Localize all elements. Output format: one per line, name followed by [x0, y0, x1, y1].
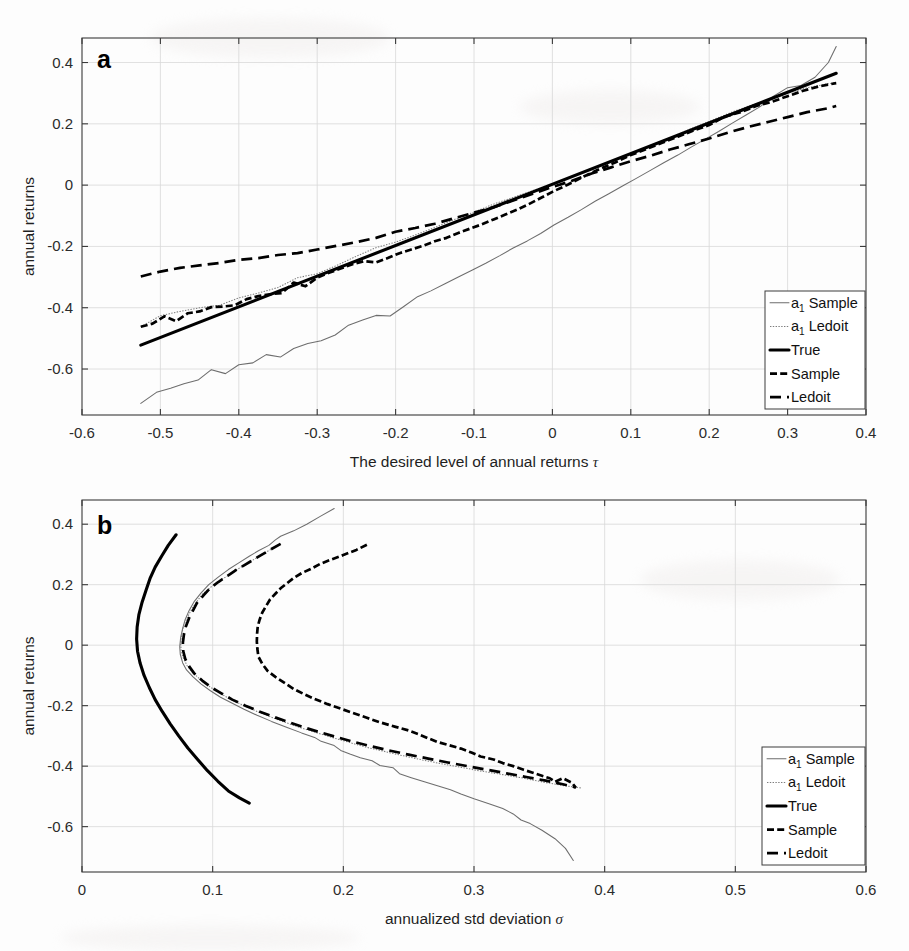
- legend-text: Ledoit: [802, 774, 846, 790]
- series-line-true: [137, 535, 250, 803]
- x-tick-label: 0.5: [725, 881, 746, 898]
- y-tick-label: -0.2: [47, 237, 73, 254]
- legend-text: True: [788, 798, 817, 814]
- legend-text: Ledoit: [805, 318, 849, 334]
- x-tick-label: 0.4: [856, 424, 877, 441]
- panel-letter-b: b: [97, 511, 112, 539]
- series-line-a1_sample: [141, 47, 836, 404]
- series-line-a1_ledoit: [181, 544, 582, 788]
- axes-layer: -0.6-0.5-0.4-0.3-0.2-0.100.10.20.30.4-0.…: [47, 38, 876, 441]
- grid-layer: [82, 500, 866, 872]
- x-tick-label: 0.3: [777, 424, 798, 441]
- y-tick-label: 0.2: [52, 576, 73, 593]
- legend-label-true: True: [791, 342, 820, 358]
- panel-letter-a: a: [97, 45, 112, 73]
- x-tick-label: 0: [78, 881, 86, 898]
- legend-label-ledoit: Ledoit: [791, 389, 831, 405]
- x-axis-title: The desired level of annual returns τ: [350, 453, 599, 470]
- legend-text: Sample: [802, 751, 855, 767]
- legend-text: Ledoit: [791, 389, 831, 405]
- legend-text: Sample: [805, 295, 858, 311]
- x-tick-label: -0.4: [226, 424, 252, 441]
- legend-label-true: True: [788, 798, 817, 814]
- x-tick-label: 0.1: [620, 424, 641, 441]
- x-tick-label: -0.6: [69, 424, 95, 441]
- x-tick-label: -0.5: [147, 424, 173, 441]
- y-tick-label: 0.4: [52, 515, 73, 532]
- legend-b[interactable]: a1 Samplea1 LedoitTrueSampleLedoit: [762, 747, 865, 865]
- series-line-a1_ledoit: [141, 82, 836, 326]
- y-tick-label: 0: [65, 176, 73, 193]
- legend-a[interactable]: a1 Samplea1 LedoitTrueSampleLedoit: [765, 291, 865, 409]
- series-line-sample: [257, 545, 576, 788]
- y-axis-title: annual returns: [20, 636, 37, 735]
- y-tick-label: 0.2: [52, 115, 73, 132]
- series-line-ledoit: [141, 106, 836, 276]
- x-axis-symbol: τ: [593, 454, 599, 470]
- x-tick-label: 0.4: [594, 881, 615, 898]
- x-tick-label: -0.1: [461, 424, 487, 441]
- legend-text: Sample: [791, 366, 840, 382]
- panel-b-svg: 00.10.20.30.40.50.6-0.6-0.4-0.200.20.4ba…: [0, 480, 909, 951]
- series-line-true: [141, 73, 836, 345]
- x-tick-label: -0.3: [304, 424, 330, 441]
- legend-text: Sample: [788, 822, 837, 838]
- legend-text: Ledoit: [788, 845, 828, 861]
- figure-container: -0.6-0.5-0.4-0.3-0.2-0.100.10.20.30.4-0.…: [0, 0, 909, 951]
- x-tick-label: 0.2: [333, 881, 354, 898]
- y-tick-label: 0.4: [52, 54, 73, 71]
- x-tick-label: 0.3: [464, 881, 485, 898]
- x-axis-symbol: σ: [556, 911, 564, 927]
- legend-label-ledoit: Ledoit: [788, 845, 828, 861]
- y-tick-label: -0.2: [47, 697, 73, 714]
- y-tick-label: -0.4: [47, 757, 73, 774]
- series-layer: [141, 47, 836, 404]
- x-tick-label: 0.2: [699, 424, 720, 441]
- series-line-a1_sample: [180, 508, 574, 860]
- y-tick-label: -0.6: [47, 360, 73, 377]
- panel-a-svg: -0.6-0.5-0.4-0.3-0.2-0.100.10.20.30.4-0.…: [0, 0, 909, 480]
- chart-panel-a: -0.6-0.5-0.4-0.3-0.2-0.100.10.20.30.4-0.…: [0, 0, 909, 480]
- series-line-sample: [141, 83, 836, 327]
- y-tick-label: -0.4: [47, 299, 73, 316]
- x-tick-label: 0.6: [856, 881, 877, 898]
- x-tick-label: -0.2: [383, 424, 409, 441]
- series-layer: [137, 508, 582, 860]
- axes-layer: 00.10.20.30.40.50.6-0.6-0.4-0.200.20.4: [47, 500, 876, 898]
- y-tick-label: 0: [65, 636, 73, 653]
- y-axis-title: annual returns: [20, 177, 37, 276]
- x-tick-label: 0: [548, 424, 556, 441]
- x-axis-title: annualized std deviation σ: [385, 910, 564, 927]
- y-tick-label: -0.6: [47, 818, 73, 835]
- legend-label-sample: Sample: [791, 366, 840, 382]
- chart-panel-b: 00.10.20.30.40.50.6-0.6-0.4-0.200.20.4ba…: [0, 480, 909, 951]
- legend-text: True: [791, 342, 820, 358]
- x-tick-label: 0.1: [202, 881, 223, 898]
- legend-label-sample: Sample: [788, 822, 837, 838]
